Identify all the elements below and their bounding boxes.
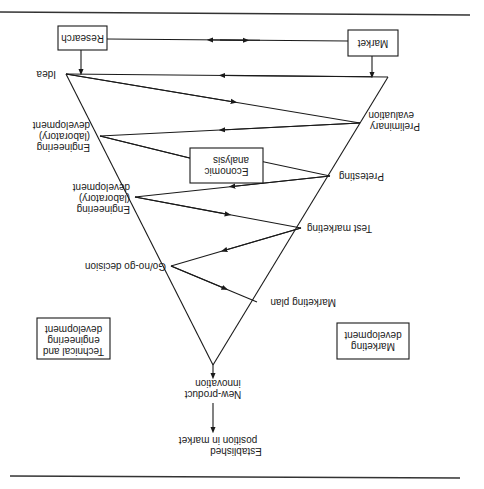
marketing-plan-node: Marketing plan [270,297,336,308]
new-product-line-2: innovation [195,378,241,389]
eng1-line-2: (laboratory) [39,131,90,142]
go-no-go-label: Go/no-go decision [85,261,166,272]
established-node: Established position in market [179,435,262,457]
pretesting-label: Pretesting [339,171,384,182]
eng2-line-3: development [73,182,130,193]
research-label: Research [61,33,104,44]
idea-label: Idea [36,69,56,80]
technical-line-2: engineering [47,335,99,346]
new-product-node: New-product innovation [184,378,241,400]
bottom-rule [10,476,460,478]
eng1-line-3: development [33,120,90,131]
marketing-dev-line-2: development [344,330,401,341]
established-line-1: Established [210,446,262,457]
eng2-line-2: (laboratory) [79,193,130,204]
research-market-link [107,39,348,41]
test-marketing-label: Test marketing [307,223,372,234]
preliminary-evaluation-node: Preliminary evaluation [368,110,420,132]
technical-dev-box: Technical and engineering development [37,318,110,359]
prelim-line-1: Preliminary [370,121,420,132]
eng2-line-1: Engineering [77,204,130,215]
go-no-go-node: Go/no-go decision [85,261,166,272]
idea-node: Idea [36,69,56,80]
research-box: Research [58,26,107,50]
eng1-line-1: Engineering [37,142,90,153]
new-product-line-1: New-product [184,389,241,400]
economic-analysis-box: Economic analysis [190,148,263,183]
innovation-funnel-diagram: Research Market [0,0,484,489]
funnel-triangle [66,74,388,365]
technical-line-3: development [45,324,102,335]
established-line-2: position in market [179,435,258,446]
test-marketing-node: Test marketing [307,223,372,234]
marketing-plan-label: Marketing plan [270,297,336,308]
technical-line-1: Technical and [43,346,104,357]
economic-line-2: analysis [213,155,249,166]
marketing-dev-line-1: Marketing [351,341,395,352]
market-box: Market [348,30,398,56]
market-label: Market [357,38,388,49]
economic-line-1: Economic [205,166,249,177]
prelim-line-2: evaluation [368,110,414,121]
engineering-dev-1-node: Engineering (laboratory) development [33,120,90,153]
top-rule [0,12,470,15]
engineering-dev-2-node: Engineering (laboratory) development [73,182,130,215]
marketing-dev-box: Marketing development [337,323,409,359]
pretesting-node: Pretesting [339,171,384,182]
